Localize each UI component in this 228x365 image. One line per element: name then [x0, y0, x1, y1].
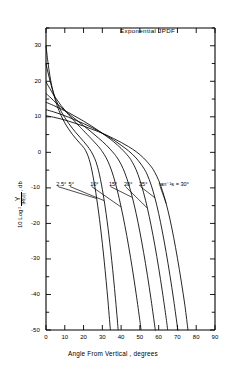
- annotation-leaders: [58, 187, 166, 209]
- y-tick-label: 20: [34, 78, 41, 84]
- curve-annotation: 10°: [90, 181, 98, 187]
- axis-ticks: [46, 28, 215, 330]
- x-tick-label: 0: [44, 334, 47, 340]
- curve-15: [46, 93, 155, 330]
- x-tick-label: 60: [155, 334, 162, 340]
- y-axis-fraction-numerator: Y: [14, 196, 21, 203]
- curve-tan-s-30: [46, 116, 188, 330]
- curve-annotation: 25°: [139, 181, 147, 187]
- x-tick-label: 20: [80, 334, 87, 340]
- x-axis-title: Angle From Vertical , degrees: [68, 350, 158, 357]
- curve-25: [46, 110, 178, 331]
- curve-annotation: tan⁻¹s = 30°: [159, 181, 189, 187]
- curve-annotation: 20°: [124, 181, 132, 187]
- curve-annotation: 2.5°: [56, 181, 66, 187]
- y-tick-label: -40: [31, 291, 40, 297]
- y-tick-label: -50: [31, 327, 40, 333]
- y-axis-title: 10 Log2 Y |R(0)| , db: [14, 181, 27, 228]
- x-tick-label: 70: [174, 334, 181, 340]
- y-tick-label: 30: [34, 42, 41, 48]
- curve-annotation: 15°: [109, 181, 117, 187]
- curve-2.5: [46, 46, 110, 330]
- chart-title: Exponential JPDF: [120, 27, 175, 34]
- data-curves: [46, 46, 188, 331]
- x-tick-label: 90: [212, 334, 219, 340]
- y-tick-label: -30: [31, 255, 40, 261]
- y-axis-title-sub: 2: [18, 207, 22, 209]
- y-tick-label: -10: [31, 184, 40, 190]
- y-tick-label: -20: [31, 220, 40, 226]
- x-tick-label: 10: [61, 334, 68, 340]
- x-tick-label: 80: [193, 334, 200, 340]
- curve-10: [46, 82, 141, 330]
- y-axis-title-fraction: Y |R(0)|: [14, 192, 27, 205]
- x-tick-label: 50: [136, 334, 143, 340]
- y-tick-label: 0: [38, 149, 41, 155]
- y-tick-label: 10: [34, 113, 41, 119]
- x-tick-label: 40: [118, 334, 125, 340]
- curve-annotation: 5°: [69, 181, 74, 187]
- axes-frame: [46, 28, 215, 330]
- y-axis-fraction-denominator: |R(0)|: [22, 192, 27, 205]
- figure-exponential-jpdf: Exponential JPDF 0102030405060708090 -50…: [0, 0, 228, 365]
- x-tick-label: 30: [99, 334, 106, 340]
- y-axis-title-suffix: , db: [17, 181, 23, 191]
- y-axis-title-prefix: 10 Log: [17, 210, 23, 228]
